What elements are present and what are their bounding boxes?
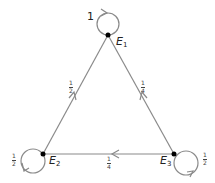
state-label-e2: E2 <box>49 155 60 168</box>
self-loop-e1-arrow-icon <box>101 9 107 16</box>
state-label-e3: E3 <box>160 155 171 168</box>
state-label-e1: E1 <box>116 36 127 49</box>
prob-e2-e1: 12 <box>69 80 73 94</box>
node-e1 <box>106 33 111 38</box>
self-loop-e3 <box>174 151 198 175</box>
edge-e2-e1 <box>43 35 108 154</box>
prob-e3-e1: 14 <box>141 80 145 94</box>
prob-e3-e3: 12 <box>203 152 207 166</box>
node-e2 <box>41 152 46 157</box>
self-loop-e2-arrow-icon <box>22 163 29 171</box>
prob-e3-e2: 14 <box>107 156 111 170</box>
self-loop-e1 <box>97 13 119 35</box>
node-e3 <box>172 152 177 157</box>
prob-e2-e2: 12 <box>12 153 16 167</box>
prob-e1-e1: 1 <box>87 11 94 22</box>
